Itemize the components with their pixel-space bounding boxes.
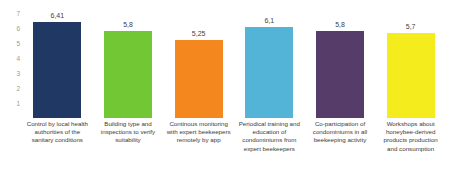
y-axis-tick: 6 bbox=[0, 25, 20, 32]
bar-value-label: 6,41 bbox=[33, 12, 81, 20]
category-label: Co-participation of condominiums in all … bbox=[307, 120, 373, 145]
y-axis-tick: 4 bbox=[0, 55, 20, 62]
bar-value-label: 6,1 bbox=[245, 17, 293, 25]
bar-group: 5,7 bbox=[387, 6, 435, 118]
bar-group: 5,25 bbox=[175, 6, 223, 118]
y-axis-tick: 3 bbox=[0, 70, 20, 77]
bar-value-label: 5,25 bbox=[175, 30, 223, 38]
bar-group: 6,41 bbox=[33, 6, 81, 118]
bar-chart: 7654321 6,415,85,256,15,85,7 Control by … bbox=[0, 0, 452, 179]
category-labels: Control by local health authorities of t… bbox=[22, 120, 446, 178]
y-axis-tick: 2 bbox=[0, 85, 20, 92]
category-label: Continous monitoring with expert beekeep… bbox=[166, 120, 232, 145]
plot-area: 6,415,85,256,15,85,7 bbox=[22, 6, 446, 118]
bar-value-label: 5,8 bbox=[104, 21, 152, 29]
y-axis-tick: 7 bbox=[0, 10, 20, 17]
category-label: Periodical training and education of con… bbox=[236, 120, 302, 153]
y-axis-tick: 5 bbox=[0, 40, 20, 47]
category-label: Building type and inspections to verify … bbox=[95, 120, 161, 145]
category-label: Control by local health authorities of t… bbox=[24, 120, 90, 145]
bar-value-label: 5,7 bbox=[387, 23, 435, 31]
bar[interactable] bbox=[33, 22, 81, 118]
bar[interactable] bbox=[104, 31, 152, 118]
y-axis-tick: 1 bbox=[0, 100, 20, 107]
bar-group: 5,8 bbox=[104, 6, 152, 118]
bar-group: 6,1 bbox=[245, 6, 293, 118]
bar[interactable] bbox=[316, 31, 364, 118]
bar[interactable] bbox=[387, 33, 435, 118]
bar-group: 5,8 bbox=[316, 6, 364, 118]
category-label: Workshops about honeybee-derived product… bbox=[378, 120, 444, 153]
y-axis: 7654321 bbox=[0, 6, 20, 118]
bars-container: 6,415,85,256,15,85,7 bbox=[22, 6, 446, 118]
bar[interactable] bbox=[245, 27, 293, 118]
bar-value-label: 5,8 bbox=[316, 21, 364, 29]
bar[interactable] bbox=[175, 40, 223, 118]
